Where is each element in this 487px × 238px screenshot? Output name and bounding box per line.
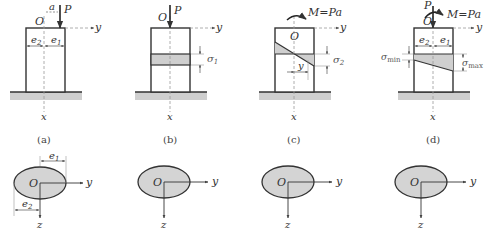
caption-c: (c) <box>287 134 301 145</box>
y-axis-label: y <box>475 21 483 34</box>
z-axis-label: z <box>284 219 291 230</box>
offset-label: a <box>49 1 55 12</box>
y-axis-label: y <box>211 175 219 188</box>
cross-section-a: y z O e1 e2 <box>14 150 93 230</box>
cross-section-c: y z O <box>262 166 343 230</box>
caption-d: (d) <box>426 134 440 145</box>
y-axis-label: y <box>469 175 477 188</box>
caption-b: (b) <box>163 134 177 145</box>
y-axis-label: y <box>94 21 102 34</box>
ground <box>259 92 331 100</box>
cross-section-b: y z O <box>138 166 219 230</box>
origin-label: O <box>29 177 38 190</box>
y-axis-label: y <box>339 21 347 34</box>
eccentric-loading-figure: y O P a e2 e1 x (a) y O P σ1 x (b) <box>0 0 487 238</box>
x-axis-label: x <box>291 111 297 122</box>
sigma2-label: σ2 <box>333 54 345 67</box>
x-axis-label: x <box>41 111 47 122</box>
origin-label: O <box>410 176 419 189</box>
ground <box>10 92 82 100</box>
panel-c: y O M=Pa σ2 y x (c) <box>259 6 347 145</box>
moment-arrow-icon <box>287 16 306 20</box>
origin-label: O <box>153 176 162 189</box>
ground <box>135 92 207 100</box>
panel-a: y O P a e2 e1 x (a) <box>10 1 102 145</box>
origin-label: O <box>423 15 432 28</box>
sigma-min-label: σmin <box>381 52 401 64</box>
origin-label: O <box>277 176 286 189</box>
cross-section-d: y z O <box>395 166 477 230</box>
force-label: P <box>423 0 432 12</box>
z-axis-label: z <box>160 219 167 230</box>
y-axis-label: y <box>335 175 343 188</box>
z-axis-label: z <box>417 219 424 230</box>
x-axis-label: x <box>430 111 436 122</box>
moment-label: M=Pa <box>307 6 342 19</box>
moment-label: M=Pa <box>446 8 481 21</box>
z-axis-label: z <box>36 219 43 230</box>
uniform-stress-band <box>151 54 190 65</box>
ground <box>398 92 470 100</box>
y-axis-label: y <box>85 176 93 189</box>
origin-label: O <box>290 30 299 43</box>
sigma-max-label: σmax <box>462 58 483 70</box>
y-axis-label: y <box>215 21 223 34</box>
panel-d: y P O M=Pa e2 e1 σmin σmax x (d) <box>381 0 483 145</box>
origin-label: O <box>35 15 44 28</box>
sigma1-label: σ1 <box>207 53 218 66</box>
force-label: P <box>173 4 182 17</box>
panel-b: y O P σ1 x (b) <box>135 4 223 145</box>
origin-label: O <box>158 11 167 24</box>
caption-a: (a) <box>37 134 51 145</box>
x-axis-label: x <box>167 111 173 122</box>
force-label: P <box>63 3 72 16</box>
coord-y-label: y <box>297 60 304 71</box>
e2-label: e2 <box>22 198 33 211</box>
